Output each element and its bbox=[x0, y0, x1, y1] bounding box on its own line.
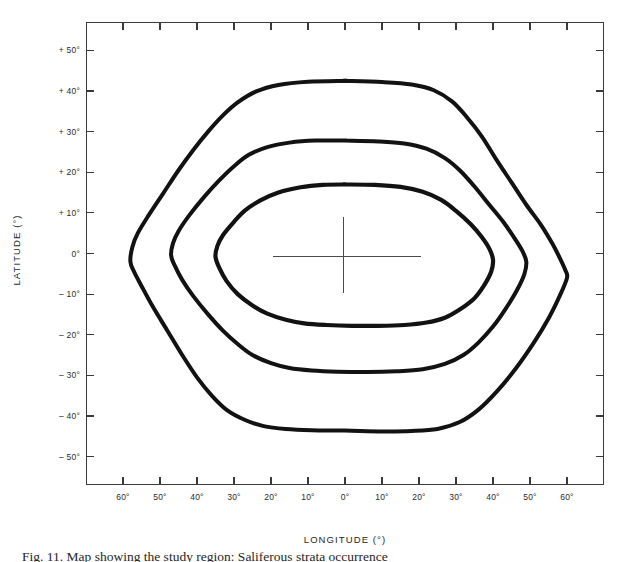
x-tick-label: 10° bbox=[375, 492, 388, 502]
y-tick-label: + 20° bbox=[48, 167, 80, 177]
y-tick-left bbox=[86, 90, 94, 91]
y-tick-right bbox=[596, 253, 604, 254]
y-tick-right bbox=[596, 131, 604, 132]
figure-caption: Fig. 11. Map showing the study region: S… bbox=[22, 549, 612, 562]
x-tick-label: 10° bbox=[301, 492, 314, 502]
x-tick-bottom bbox=[492, 477, 493, 485]
x-tick-top bbox=[307, 22, 308, 30]
y-tick-label: – 50° bbox=[48, 452, 80, 462]
y-tick-label: – 10° bbox=[48, 289, 80, 299]
x-tick-top bbox=[344, 22, 345, 30]
x-tick-label: 30° bbox=[449, 492, 462, 502]
x-tick-label: 40° bbox=[190, 492, 203, 502]
y-tick-label: + 50° bbox=[48, 45, 80, 55]
x-tick-top bbox=[529, 22, 530, 30]
x-tick-label: 20° bbox=[412, 492, 425, 502]
x-tick-bottom bbox=[307, 477, 308, 485]
x-tick-top bbox=[196, 22, 197, 30]
x-tick-bottom bbox=[566, 477, 567, 485]
x-tick-bottom bbox=[381, 477, 382, 485]
y-tick-left bbox=[86, 50, 94, 51]
y-tick-label: + 30° bbox=[48, 127, 80, 137]
x-tick-top bbox=[455, 22, 456, 30]
x-tick-top bbox=[418, 22, 419, 30]
x-tick-label: 60° bbox=[116, 492, 129, 502]
y-tick-right bbox=[596, 456, 604, 457]
x-tick-bottom bbox=[159, 477, 160, 485]
y-axis-title: LATITUDE (°) bbox=[11, 214, 22, 285]
x-tick-bottom bbox=[196, 477, 197, 485]
x-axis-title: LONGITUDE (°) bbox=[304, 534, 387, 545]
x-tick-top bbox=[492, 22, 493, 30]
contour-plot bbox=[86, 22, 604, 485]
y-tick-right bbox=[596, 172, 604, 173]
y-tick-left bbox=[86, 253, 94, 254]
x-tick-top bbox=[270, 22, 271, 30]
x-tick-bottom bbox=[122, 477, 123, 485]
x-tick-label: 50° bbox=[153, 492, 166, 502]
origin-crosshair-horizontal bbox=[273, 256, 421, 257]
figure-root: 60°50°40°30°20°10°0°10°20°30°40°50°60°+ … bbox=[0, 0, 625, 562]
y-tick-left bbox=[86, 375, 94, 376]
y-tick-left bbox=[86, 212, 94, 213]
y-tick-label: – 30° bbox=[48, 370, 80, 380]
y-tick-right bbox=[596, 50, 604, 51]
y-tick-label: – 40° bbox=[48, 411, 80, 421]
y-tick-left bbox=[86, 172, 94, 173]
x-tick-label: 20° bbox=[264, 492, 277, 502]
x-tick-label: 30° bbox=[227, 492, 240, 502]
y-tick-right bbox=[596, 415, 604, 416]
y-tick-left bbox=[86, 294, 94, 295]
x-tick-top bbox=[233, 22, 234, 30]
x-tick-top bbox=[159, 22, 160, 30]
x-tick-bottom bbox=[270, 477, 271, 485]
y-tick-left bbox=[86, 415, 94, 416]
y-tick-right bbox=[596, 212, 604, 213]
y-tick-label: + 10° bbox=[48, 208, 80, 218]
x-tick-bottom bbox=[344, 477, 345, 485]
y-tick-right bbox=[596, 375, 604, 376]
x-tick-label: 50° bbox=[523, 492, 536, 502]
x-tick-label: 40° bbox=[486, 492, 499, 502]
y-tick-left bbox=[86, 456, 94, 457]
x-tick-bottom bbox=[233, 477, 234, 485]
x-tick-bottom bbox=[455, 477, 456, 485]
x-tick-label: 0° bbox=[341, 492, 350, 502]
y-tick-label: 0° bbox=[48, 249, 80, 259]
y-tick-right bbox=[596, 334, 604, 335]
x-tick-top bbox=[122, 22, 123, 30]
x-tick-bottom bbox=[418, 477, 419, 485]
x-tick-bottom bbox=[529, 477, 530, 485]
x-tick-top bbox=[566, 22, 567, 30]
y-tick-left bbox=[86, 131, 94, 132]
y-tick-right bbox=[596, 294, 604, 295]
origin-crosshair-vertical bbox=[343, 217, 344, 293]
x-tick-top bbox=[381, 22, 382, 30]
y-tick-label: + 40° bbox=[48, 86, 80, 96]
y-tick-label: – 20° bbox=[48, 330, 80, 340]
x-tick-label: 60° bbox=[560, 492, 573, 502]
y-tick-right bbox=[596, 90, 604, 91]
y-tick-left bbox=[86, 334, 94, 335]
